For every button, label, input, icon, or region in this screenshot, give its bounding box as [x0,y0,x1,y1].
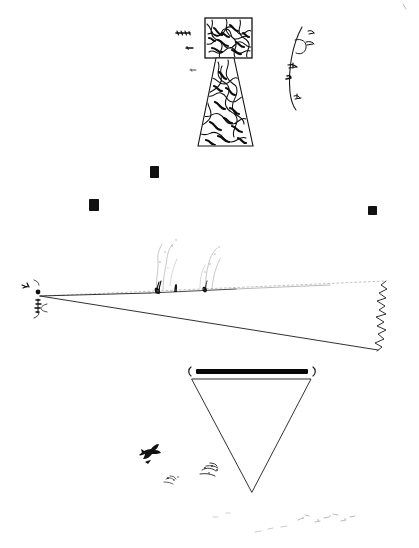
bird-silhouette-icon [139,444,161,464]
heavy-bar [196,369,308,374]
lower-figures-layer [0,0,419,548]
diagram-canvas: Hand-drawn black ink sketch: textured to… [0,0,419,548]
bracket-right-icon [313,367,315,376]
ink-smudge-cluster [164,476,179,484]
ink-smudge-cluster [200,463,218,476]
bracket-left-icon [189,367,191,376]
inverted-triangle [192,379,311,493]
bottom-speck-marks [213,513,355,532]
